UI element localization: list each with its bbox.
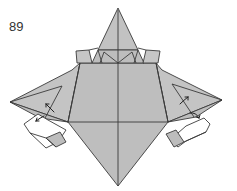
left-shoulder-flap bbox=[76, 50, 92, 63]
right-shoulder-flap bbox=[143, 50, 160, 63]
origami-diagram bbox=[0, 0, 237, 191]
